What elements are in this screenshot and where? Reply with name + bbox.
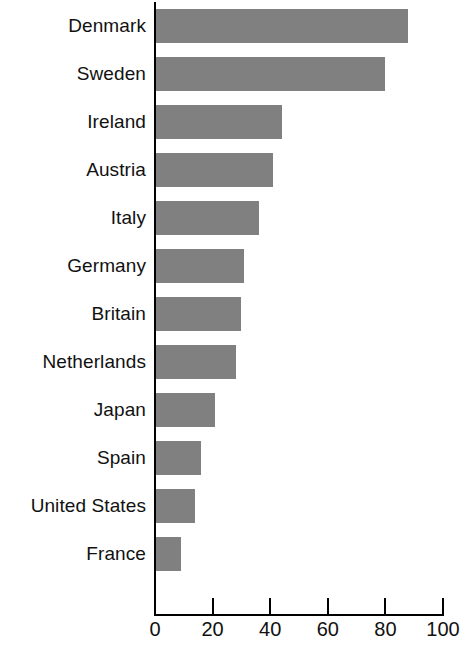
x-axis-tick-mark: [269, 598, 271, 614]
bar-france: [155, 537, 181, 571]
x-axis-tick-label: 0: [125, 618, 185, 641]
table-row: Sweden: [0, 50, 461, 98]
bar-category-label: France: [0, 530, 146, 578]
x-axis-tick-label: 40: [240, 618, 300, 641]
x-axis-line: [154, 614, 444, 616]
bar-germany: [155, 249, 244, 283]
x-axis-tick-mark: [327, 598, 329, 614]
x-axis-tick-label: 80: [355, 618, 415, 641]
bar-category-label: United States: [0, 482, 146, 530]
bar-denmark: [155, 9, 408, 43]
bar-category-label: Sweden: [0, 50, 146, 98]
bar-category-label: Britain: [0, 290, 146, 338]
bar-category-label: Italy: [0, 194, 146, 242]
bar-category-label: Ireland: [0, 98, 146, 146]
bar-ireland: [155, 105, 282, 139]
x-axis-tick-mark: [384, 598, 386, 614]
x-axis-tick-mark: [442, 598, 444, 614]
bar-united-states: [155, 489, 195, 523]
x-axis-tick-label: 60: [298, 618, 358, 641]
table-row: Austria: [0, 146, 461, 194]
table-row: United States: [0, 482, 461, 530]
bar-netherlands: [155, 345, 236, 379]
table-row: Japan: [0, 386, 461, 434]
bar-japan: [155, 393, 215, 427]
table-row: Italy: [0, 194, 461, 242]
bar-category-label: Spain: [0, 434, 146, 482]
bar-category-label: Austria: [0, 146, 146, 194]
bar-category-label: Netherlands: [0, 338, 146, 386]
bar-category-label: Denmark: [0, 2, 146, 50]
bar-category-label: Japan: [0, 386, 146, 434]
x-axis-tick-label: 20: [183, 618, 243, 641]
table-row: Spain: [0, 434, 461, 482]
bar-spain: [155, 441, 201, 475]
table-row: Germany: [0, 242, 461, 290]
table-row: Ireland: [0, 98, 461, 146]
bar-austria: [155, 153, 273, 187]
x-axis-tick-label: 100: [413, 618, 461, 641]
table-row: Netherlands: [0, 338, 461, 386]
bar-category-label: Germany: [0, 242, 146, 290]
table-row: Denmark: [0, 2, 461, 50]
bar-italy: [155, 201, 259, 235]
x-axis-tick-mark: [154, 598, 156, 614]
table-row: France: [0, 530, 461, 578]
x-axis-tick-mark: [212, 598, 214, 614]
table-row: Britain: [0, 290, 461, 338]
y-axis-line: [154, 2, 156, 616]
bar-britain: [155, 297, 241, 331]
bar-chart: DenmarkSwedenIrelandAustriaItalyGermanyB…: [0, 0, 461, 646]
bar-sweden: [155, 57, 385, 91]
